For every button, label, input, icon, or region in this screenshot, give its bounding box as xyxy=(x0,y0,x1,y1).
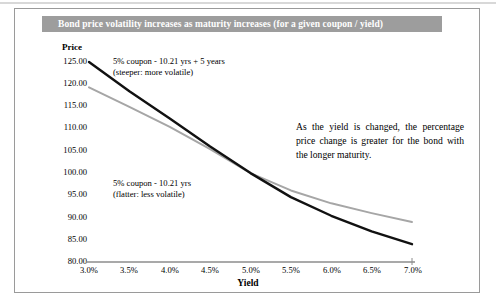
x-axis-title: Yield xyxy=(0,278,496,288)
explanatory-paragraph: As the yield is changed, the percentage … xyxy=(296,120,464,162)
annotation-lower-line2: (flatter: less volatile) xyxy=(113,189,191,200)
annotation-upper-line2: (steeper: more volatile) xyxy=(113,67,225,78)
annotation-upper: 5% coupon - 10.21 yrs + 5 years (steeper… xyxy=(113,56,225,78)
annotation-lower: 5% coupon - 10.21 yrs (flatter: less vol… xyxy=(113,178,191,200)
annotation-lower-line1: 5% coupon - 10.21 yrs xyxy=(113,178,191,189)
exhibit-figure: Bond price volatility increases as matur… xyxy=(0,0,496,304)
annotation-upper-line1: 5% coupon - 10.21 yrs + 5 years xyxy=(113,56,225,67)
